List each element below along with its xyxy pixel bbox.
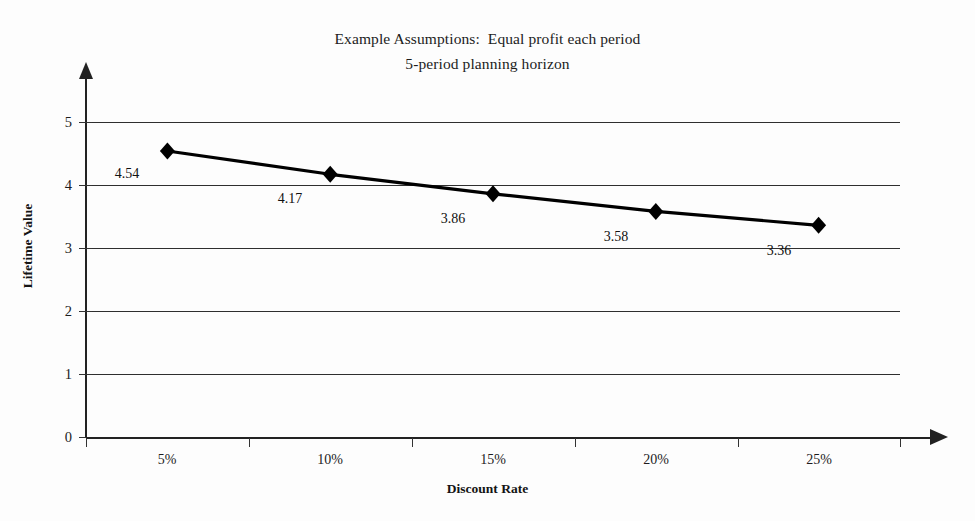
x-tick-boundary-3 xyxy=(575,438,576,447)
x-tick-label-3: 20% xyxy=(611,452,701,468)
y-tick-4 xyxy=(79,185,92,186)
gridline-4 xyxy=(86,185,900,186)
x-tick-boundary-4 xyxy=(738,438,739,447)
x-tick-label-4: 25% xyxy=(774,452,864,468)
y-tick-label-2: 2 xyxy=(38,304,72,319)
y-tick-label-0: 0 xyxy=(38,430,72,445)
chart-title: Example Assumptions: Equal profit each p… xyxy=(0,26,975,76)
x-tick-boundary-0 xyxy=(86,438,87,447)
point-label-3: 3.58 xyxy=(576,229,656,244)
point-label-1: 4.17 xyxy=(250,191,330,206)
chart-title-line-1: Example Assumptions: Equal profit each p… xyxy=(0,26,975,51)
gridline-1 xyxy=(86,374,900,375)
x-tick-boundary-5 xyxy=(900,438,901,447)
y-tick-5 xyxy=(79,122,92,123)
gridline-5 xyxy=(86,122,900,123)
y-tick-label-4: 4 xyxy=(38,178,72,193)
y-tick-3 xyxy=(79,248,92,249)
y-tick-label-5: 5 xyxy=(38,115,72,130)
x-axis-arrow-icon xyxy=(930,429,948,445)
x-tick-boundary-1 xyxy=(249,438,250,447)
x-axis-line xyxy=(86,437,935,439)
chart-figure: Example Assumptions: Equal profit each p… xyxy=(0,0,975,521)
gridline-2 xyxy=(86,311,900,312)
x-tick-boundary-2 xyxy=(412,438,413,447)
y-axis-arrow-icon xyxy=(79,62,93,79)
y-tick-label-1: 1 xyxy=(38,367,72,382)
y-axis-line xyxy=(85,76,87,438)
x-tick-label-2: 15% xyxy=(448,452,538,468)
plot-area xyxy=(86,122,900,437)
y-tick-label-3: 3 xyxy=(38,241,72,256)
point-label-2: 3.86 xyxy=(413,211,493,226)
x-axis-title: Discount Rate xyxy=(0,481,975,497)
chart-title-line-2: 5-period planning horizon xyxy=(0,51,975,76)
y-axis-title: Lifetime Value xyxy=(20,176,36,316)
point-label-0: 4.54 xyxy=(87,166,167,181)
x-tick-label-0: 5% xyxy=(122,452,212,468)
y-tick-1 xyxy=(79,374,92,375)
y-tick-2 xyxy=(79,311,92,312)
x-tick-label-1: 10% xyxy=(285,452,375,468)
point-label-4: 3.36 xyxy=(739,243,819,258)
